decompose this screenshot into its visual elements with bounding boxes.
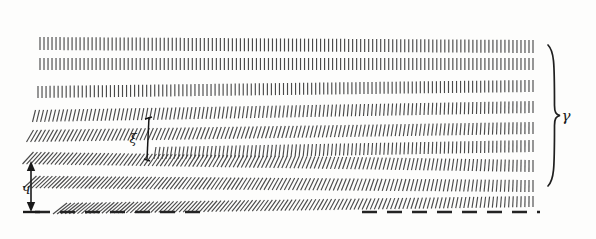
hatch-tick — [404, 103, 405, 115]
hatch-tick — [476, 123, 477, 135]
hatch-tick — [416, 103, 417, 115]
figure-root: γ ч ξ — [0, 0, 596, 239]
hatch-tick — [509, 196, 510, 207]
hatch-tick — [384, 143, 385, 155]
hatch-tick — [497, 159, 498, 171]
hatch-tick — [400, 142, 401, 154]
hatch-tick — [484, 123, 485, 135]
hatch-tick — [420, 142, 421, 154]
hatch-tick — [501, 159, 502, 171]
hatch-tick — [396, 103, 397, 115]
hatch-tick — [432, 103, 433, 115]
left-dimension-label: ч — [22, 181, 31, 197]
middle-bracket-label: ξ — [129, 131, 137, 146]
hatch-tick — [420, 103, 421, 115]
hatch-tick — [432, 142, 433, 154]
hatch-tick — [380, 143, 381, 155]
hatch-tick — [412, 103, 413, 115]
hatch-tick — [412, 142, 413, 154]
hatch-tick — [404, 142, 405, 154]
hatch-tick — [492, 123, 493, 135]
hatch-tick — [436, 103, 437, 115]
hatch-tick — [448, 103, 449, 115]
figure-canvas: γ ч ξ — [0, 0, 596, 239]
hatch-tick — [428, 103, 429, 115]
hatch-tick — [497, 123, 498, 135]
hatch-tick — [416, 142, 417, 154]
hatch-tick — [424, 103, 425, 115]
hatch-tick — [408, 142, 409, 154]
hatch-tick — [488, 123, 489, 135]
hatch-tick — [444, 103, 445, 115]
hatch-tick — [480, 123, 481, 135]
hatch-tick — [513, 196, 514, 207]
hatch-tick — [428, 142, 429, 154]
hatch-tick — [513, 180, 514, 192]
hatch-tick — [440, 103, 441, 115]
hatch-tick — [400, 103, 401, 115]
brace-label-gamma: γ — [562, 107, 571, 125]
hatch-tick — [504, 180, 505, 192]
hatch-tick — [392, 143, 393, 155]
hatch-tick — [509, 180, 510, 192]
hatch-tick — [436, 142, 437, 154]
hatch-tick — [509, 160, 510, 172]
hatch-tick — [505, 160, 506, 172]
hatch-tick — [408, 103, 409, 115]
hatch-tick — [424, 142, 425, 154]
hatch-tick — [396, 143, 397, 155]
hatch-tick — [388, 143, 389, 155]
